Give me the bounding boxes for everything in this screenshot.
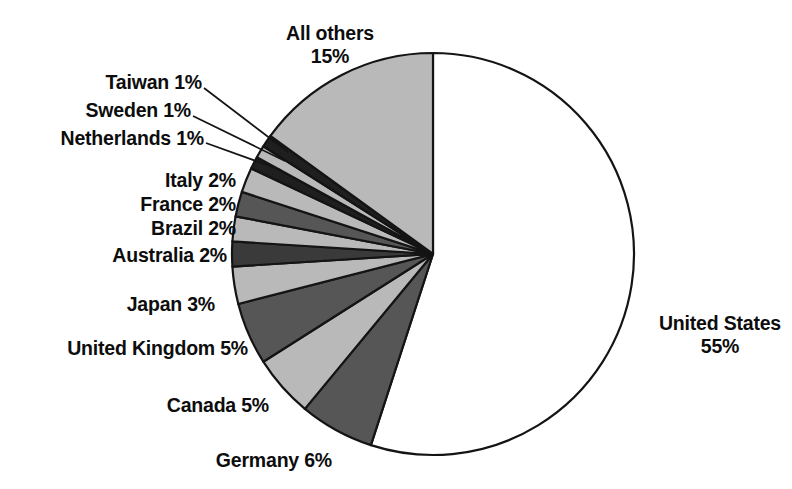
label-united-kingdom: United Kingdom 5% — [0, 337, 248, 360]
label-taiwan: Taiwan 1% — [0, 71, 202, 94]
label-australia: Australia 2% — [0, 244, 227, 267]
pie-chart-figure: All others 15% Taiwan 1% Sweden 1% Nethe… — [0, 0, 792, 489]
label-all-others-line2: 15% — [260, 45, 400, 68]
label-netherlands: Netherlands 1% — [0, 127, 204, 150]
label-united-states-line1: United States — [645, 312, 792, 335]
label-sweden: Sweden 1% — [0, 99, 191, 122]
label-germany: Germany 6% — [0, 449, 332, 472]
label-france: France 2% — [0, 193, 236, 216]
label-all-others-line1: All others — [260, 22, 400, 45]
label-japan: Japan 3% — [0, 293, 215, 316]
label-canada: Canada 5% — [0, 394, 269, 417]
label-united-states-line2: 55% — [645, 335, 792, 358]
pie-slices-group — [232, 53, 634, 455]
label-united-states: United States 55% — [645, 312, 792, 358]
label-italy: Italy 2% — [0, 169, 236, 192]
label-all-others: All others 15% — [260, 22, 400, 68]
label-brazil: Brazil 2% — [0, 217, 236, 240]
